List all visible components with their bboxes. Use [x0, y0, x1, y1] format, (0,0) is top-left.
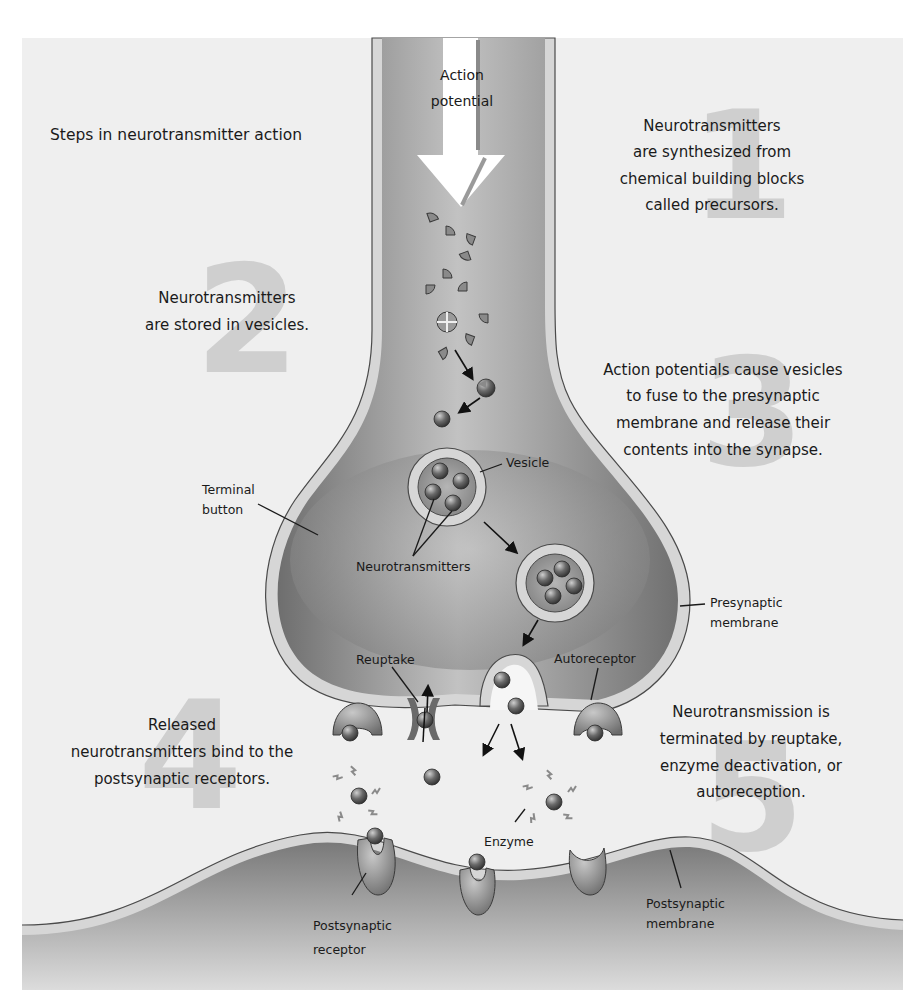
- svg-text:are synthesized from: are synthesized from: [633, 143, 791, 161]
- neurotransmitter-molecule: [434, 411, 450, 427]
- svg-text:postsynaptic receptors.: postsynaptic receptors.: [94, 770, 270, 788]
- diagram-title: Steps in neurotransmitter action: [50, 126, 302, 144]
- svg-text:Action potentials cause vesicl: Action potentials cause vesicles: [603, 361, 843, 379]
- svg-text:Neurotransmitters: Neurotransmitters: [643, 117, 780, 135]
- label-presynaptic-membrane-1: Presynaptic: [710, 595, 783, 610]
- svg-text:neurotransmitters bind to the: neurotransmitters bind to the: [71, 743, 293, 761]
- svg-text:contents into the synapse.: contents into the synapse.: [623, 441, 823, 459]
- svg-text:membrane and release their: membrane and release their: [616, 414, 831, 432]
- label-reuptake: Reuptake: [356, 652, 415, 667]
- neurotransmitter-molecule: [424, 769, 440, 785]
- svg-text:terminated by reuptake,: terminated by reuptake,: [660, 730, 842, 748]
- svg-text:Released: Released: [148, 716, 216, 734]
- svg-text:enzyme deactivation, or: enzyme deactivation, or: [660, 757, 843, 775]
- svg-text:chemical building blocks: chemical building blocks: [620, 170, 805, 188]
- label-enzyme: Enzyme: [484, 834, 534, 849]
- label-neurotransmitters: Neurotransmitters: [356, 559, 470, 574]
- step-numeral-3: 3: [700, 326, 804, 500]
- svg-text:Neurotransmitters: Neurotransmitters: [158, 289, 295, 307]
- label-autoreceptor: Autoreceptor: [554, 651, 637, 666]
- forming-neurotransmitter: [477, 379, 495, 397]
- vesicle-1: [408, 448, 486, 526]
- label-postsynaptic-receptor-1: Postsynaptic: [313, 918, 392, 933]
- svg-text:autoreception.: autoreception.: [696, 783, 805, 801]
- label-terminal-button-2: button: [202, 502, 243, 517]
- label-terminal-button-1: Terminal: [201, 482, 255, 497]
- svg-text:Neurotransmission is: Neurotransmission is: [672, 703, 830, 721]
- neurotransmitter-diagram: 1 2 3 4 5 Action potential: [0, 0, 923, 1006]
- svg-text:called precursors.: called precursors.: [645, 196, 779, 214]
- label-postsynaptic-membrane-1: Postsynaptic: [646, 896, 725, 911]
- svg-text:are stored in vesicles.: are stored in vesicles.: [145, 316, 309, 334]
- assembling-cluster-icon: [437, 312, 457, 332]
- step-numeral-1: 1: [690, 79, 794, 253]
- label-presynaptic-membrane-2: membrane: [710, 615, 779, 630]
- svg-text:to fuse to the presynaptic: to fuse to the presynaptic: [626, 387, 819, 405]
- label-postsynaptic-receptor-2: receptor: [313, 942, 367, 957]
- diagram-canvas: 1 2 3 4 5 Action potential: [0, 0, 923, 1006]
- label-vesicle: Vesicle: [506, 455, 550, 470]
- label-action-potential-2: potential: [431, 93, 493, 109]
- vesicle-2: [516, 544, 594, 622]
- label-action-potential-1: Action: [440, 67, 484, 83]
- label-postsynaptic-membrane-2: membrane: [646, 916, 715, 931]
